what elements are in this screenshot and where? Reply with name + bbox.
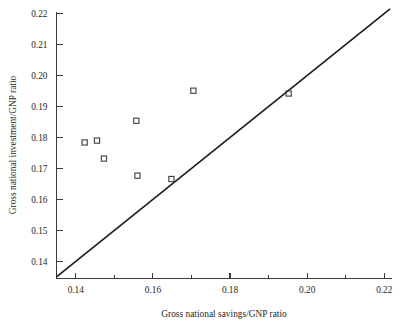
chart-canvas: 0.140.150.160.170.180.190.200.210.22 0.1… bbox=[0, 0, 401, 327]
y-tick-label: 0.18 bbox=[31, 133, 48, 143]
y-tick-label: 0.20 bbox=[31, 71, 48, 81]
data-point-marker bbox=[101, 156, 106, 161]
y-tick-label: 0.19 bbox=[31, 102, 48, 112]
x-tick-label: 0.16 bbox=[145, 285, 162, 295]
x-tick-label: 0.22 bbox=[376, 285, 393, 295]
scatter-plot-figure: 0.140.150.160.170.180.190.200.210.22 0.1… bbox=[0, 0, 401, 327]
data-point-marker bbox=[94, 138, 99, 143]
y-tick-label: 0.22 bbox=[31, 9, 48, 19]
axes-group bbox=[57, 12, 393, 279]
y-axis-title: Gross national investment/GNP ratio bbox=[8, 75, 18, 214]
data-point-group bbox=[82, 88, 291, 182]
data-point-marker bbox=[134, 118, 139, 123]
data-point-marker bbox=[169, 176, 174, 181]
y-axis-ticks: 0.140.150.160.170.180.190.200.210.22 bbox=[31, 9, 62, 267]
plot-area: 0.140.150.160.170.180.190.200.210.22 0.1… bbox=[0, 0, 401, 327]
x-tick-label: 0.20 bbox=[299, 285, 316, 295]
y-tick-label: 0.17 bbox=[31, 164, 48, 174]
data-point-marker bbox=[191, 88, 196, 93]
x-tick-label: 0.14 bbox=[68, 285, 85, 295]
x-tick-label: 0.18 bbox=[222, 285, 239, 295]
y-tick-label: 0.14 bbox=[31, 257, 48, 267]
y-tick-label: 0.21 bbox=[31, 40, 48, 50]
y-tick-label: 0.15 bbox=[31, 226, 48, 236]
forty-five-degree-line-annotation bbox=[57, 9, 391, 277]
data-point-marker bbox=[82, 140, 87, 145]
x-axis-title: Gross national savings/GNP ratio bbox=[161, 309, 287, 319]
x-axis-ticks: 0.140.160.180.200.22 bbox=[68, 273, 393, 295]
reference-line-group bbox=[57, 9, 391, 277]
y-tick-label: 0.16 bbox=[31, 195, 48, 205]
data-point-marker bbox=[135, 173, 140, 178]
